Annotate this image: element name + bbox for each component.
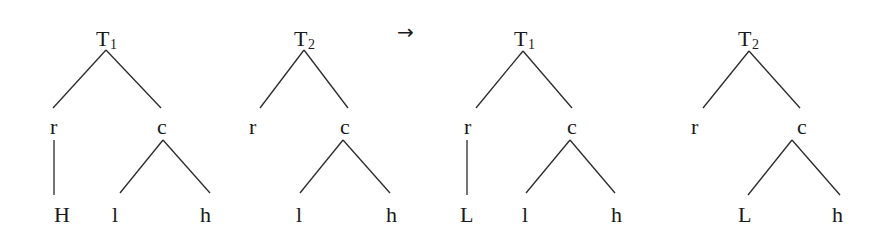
edge-c-h — [163, 140, 210, 193]
edge-root-c — [304, 50, 348, 108]
edge-root-c — [749, 51, 800, 108]
leaf-H: H — [54, 202, 70, 227]
edge-c-l — [526, 140, 570, 193]
leaf-h: h — [611, 202, 622, 227]
edge-root-c — [106, 50, 161, 108]
leaf-h: h — [386, 202, 397, 227]
tree-after-t2: T 2 r c L h — [691, 26, 843, 227]
node-c: c — [797, 114, 807, 139]
edge-root-r — [53, 50, 106, 108]
edge-c-h — [570, 140, 615, 193]
leaf-l: l — [296, 202, 302, 227]
leaf-l: l — [112, 202, 118, 227]
tree-before-t2: T 2 r c l h — [249, 26, 397, 227]
root-subscript: 1 — [528, 37, 535, 52]
node-c: c — [340, 114, 350, 139]
leaf-L: L — [460, 202, 473, 227]
root-subscript: 2 — [752, 37, 759, 52]
node-c: c — [567, 114, 577, 139]
node-r: r — [50, 114, 58, 139]
leaf-h: h — [832, 202, 843, 227]
edge-root-r — [703, 51, 749, 108]
tree-transformation-diagram: T 1 r c H l h T 2 r c l h → T 1 r c — [0, 0, 887, 242]
edge-c-l — [120, 140, 163, 193]
edge-root-c — [523, 51, 572, 108]
root-label: T — [738, 26, 752, 51]
node-r: r — [691, 114, 699, 139]
node-c: c — [157, 114, 167, 139]
edge-c-l — [300, 140, 343, 193]
node-r: r — [464, 114, 472, 139]
root-subscript: 2 — [308, 37, 315, 52]
leaf-L: L — [738, 202, 751, 227]
root-label: T — [294, 26, 308, 51]
edge-root-r — [260, 50, 304, 108]
edge-root-r — [476, 51, 523, 108]
root-label: T — [96, 26, 110, 51]
node-r: r — [249, 114, 257, 139]
edge-c-h — [792, 140, 840, 195]
tree-before-t1: T 1 r c H l h — [50, 26, 211, 227]
edge-c-L — [748, 140, 792, 195]
tree-after-t1: T 1 r c L l h — [460, 26, 622, 227]
root-label: T — [514, 26, 528, 51]
edge-c-h — [343, 140, 390, 193]
root-subscript: 1 — [110, 37, 117, 52]
leaf-l: l — [522, 202, 528, 227]
transformation-arrow: → — [397, 20, 414, 44]
leaf-h: h — [200, 202, 211, 227]
